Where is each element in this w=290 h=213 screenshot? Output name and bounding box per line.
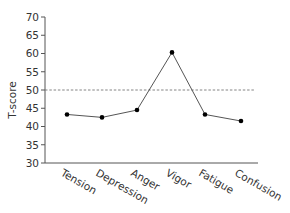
y-tick-label: 65	[26, 29, 39, 41]
y-tick-label: 30	[26, 157, 39, 169]
data-point	[135, 108, 140, 113]
y-axis-title: T-score	[6, 81, 18, 119]
series-line	[67, 52, 241, 121]
data-series	[65, 50, 244, 123]
data-point	[65, 112, 70, 117]
data-point	[239, 119, 244, 124]
x-axis: TensionDepressionAngerVigorFatigueConfus…	[45, 163, 284, 206]
y-tick-label: 45	[26, 102, 39, 114]
x-category-label: Fatigue	[197, 166, 236, 196]
y-tick-label: 50	[26, 84, 39, 96]
y-tick-label: 55	[26, 66, 39, 78]
y-tick-label: 35	[26, 139, 39, 151]
x-category-label: Tension	[58, 166, 99, 197]
x-category-label: Vigor	[164, 166, 194, 190]
data-point	[203, 112, 208, 117]
y-tick-label: 40	[26, 120, 39, 132]
data-point	[100, 115, 105, 120]
y-tick-label: 70	[26, 11, 39, 23]
y-axis: 303540455055606570	[26, 11, 45, 169]
x-category-label: Confusion	[233, 166, 284, 203]
y-tick-label: 60	[26, 47, 39, 59]
line-chart: 303540455055606570 TensionDepressionAnge…	[0, 0, 290, 213]
data-point	[170, 50, 175, 55]
